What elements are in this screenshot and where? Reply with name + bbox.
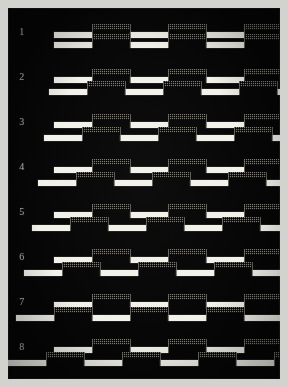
trace-row: 4 xyxy=(8,147,280,192)
lower-trace xyxy=(8,12,280,57)
dither-bar-segment xyxy=(76,172,114,178)
trace-riser xyxy=(198,352,199,366)
white-bar-segment xyxy=(24,270,62,276)
white-bar-segment xyxy=(236,360,274,366)
dither-bar-segment xyxy=(82,127,120,133)
dither-bar-segment xyxy=(138,262,176,268)
trace-row: 7 xyxy=(8,282,280,327)
dither-bar-segment xyxy=(46,352,84,358)
trace-riser xyxy=(184,217,185,231)
trace-riser xyxy=(176,262,177,276)
trace-row: 8 xyxy=(8,327,280,372)
white-bar-segment xyxy=(54,42,92,48)
trace-riser xyxy=(138,262,139,276)
dither-bar-segment xyxy=(239,81,277,87)
white-bar-segment xyxy=(16,315,54,321)
trace-riser xyxy=(239,81,240,95)
trace-riser xyxy=(252,262,253,276)
white-bar-segment xyxy=(120,135,158,141)
trace-riser xyxy=(108,217,109,231)
white-bar-segment xyxy=(176,270,214,276)
trace-riser xyxy=(160,352,161,366)
white-bar-segment xyxy=(196,135,234,141)
dither-bar-segment xyxy=(206,307,244,313)
trace-row: 6 xyxy=(8,237,280,282)
white-bar-segment xyxy=(272,135,280,141)
figure-plate: 12345678 xyxy=(0,0,288,387)
trace-riser xyxy=(146,217,147,231)
trace-row: 5 xyxy=(8,192,280,237)
trace-riser xyxy=(70,217,71,231)
white-bar-segment xyxy=(44,135,82,141)
trace-riser xyxy=(274,352,275,366)
white-bar-segment xyxy=(266,180,280,186)
dither-bar-segment xyxy=(244,34,280,40)
trace-riser xyxy=(266,172,267,186)
trace-riser xyxy=(114,172,115,186)
dither-bar-segment xyxy=(146,217,184,223)
white-bar-segment xyxy=(260,225,280,231)
lower-trace xyxy=(8,327,280,372)
white-bar-segment xyxy=(201,89,239,95)
lower-trace xyxy=(8,192,280,237)
white-bar-segment xyxy=(190,180,228,186)
dither-bar-segment xyxy=(234,127,272,133)
lower-trace xyxy=(8,102,280,147)
trace-riser xyxy=(236,352,237,366)
dither-bar-segment xyxy=(122,352,160,358)
white-bar-segment xyxy=(92,315,130,321)
dither-bar-segment xyxy=(163,81,201,87)
trace-riser xyxy=(168,34,169,48)
dither-bar-segment xyxy=(228,172,266,178)
trace-row: 2 xyxy=(8,57,280,102)
trace-riser xyxy=(168,307,169,321)
dither-bar-segment xyxy=(92,34,130,40)
dither-bar-segment xyxy=(130,307,168,313)
trace-riser xyxy=(62,262,63,276)
white-bar-segment xyxy=(125,89,163,95)
white-bar-segment xyxy=(100,270,138,276)
white-bar-segment xyxy=(108,225,146,231)
trace-riser xyxy=(158,127,159,141)
trace-riser xyxy=(152,172,153,186)
trace-riser xyxy=(130,34,131,48)
white-bar-segment xyxy=(32,225,70,231)
trace-riser xyxy=(190,172,191,186)
white-bar-segment xyxy=(206,42,244,48)
trace-riser xyxy=(206,34,207,48)
white-bar-segment xyxy=(244,315,280,321)
trace-riser xyxy=(201,81,202,95)
trace-riser xyxy=(100,262,101,276)
white-bar-segment xyxy=(38,180,76,186)
dither-bar-segment xyxy=(70,217,108,223)
trace-riser xyxy=(120,127,121,141)
trace-riser xyxy=(228,172,229,186)
trace-riser xyxy=(82,127,83,141)
trace-riser xyxy=(222,217,223,231)
trace-riser xyxy=(122,352,123,366)
trace-riser xyxy=(84,352,85,366)
lower-trace xyxy=(8,237,280,282)
trace-riser xyxy=(206,307,207,321)
white-bar-segment xyxy=(160,360,198,366)
dither-bar-segment xyxy=(54,307,92,313)
trace-riser xyxy=(54,307,55,321)
trace-riser xyxy=(196,127,197,141)
lower-trace xyxy=(8,57,280,102)
trace-riser xyxy=(92,307,93,321)
trace-riser xyxy=(272,127,273,141)
trace-riser xyxy=(125,81,126,95)
white-bar-segment xyxy=(184,225,222,231)
white-bar-segment xyxy=(114,180,152,186)
trace-riser xyxy=(163,81,164,95)
white-bar-segment xyxy=(168,315,206,321)
trace-riser xyxy=(244,307,245,321)
trace-riser xyxy=(46,352,47,366)
trace-riser xyxy=(234,127,235,141)
trace-riser xyxy=(76,172,77,186)
white-bar-segment xyxy=(252,270,280,276)
trace-riser xyxy=(277,81,278,95)
plate-field: 12345678 xyxy=(8,8,280,379)
dither-bar-segment xyxy=(214,262,252,268)
dither-bar-segment xyxy=(152,172,190,178)
